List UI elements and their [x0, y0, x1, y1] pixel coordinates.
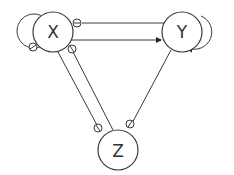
edge-y-to-z [130, 50, 171, 127]
node-z-label: Z [112, 141, 124, 161]
inhibit-marker-z-left [94, 124, 102, 132]
graph-diagram: X Y Z [0, 0, 234, 175]
inhibit-marker-x-loop [29, 43, 37, 51]
node-x-label: X [47, 22, 59, 42]
node-y-label: Y [176, 22, 188, 42]
inhibit-marker-x-bottom [68, 45, 76, 53]
node-z[interactable]: Z [98, 130, 138, 170]
inhibit-marker-x-top [73, 19, 81, 27]
node-y[interactable]: Y [162, 12, 202, 52]
inhibit-marker-z-right [126, 120, 134, 128]
node-x[interactable]: X [33, 12, 73, 52]
